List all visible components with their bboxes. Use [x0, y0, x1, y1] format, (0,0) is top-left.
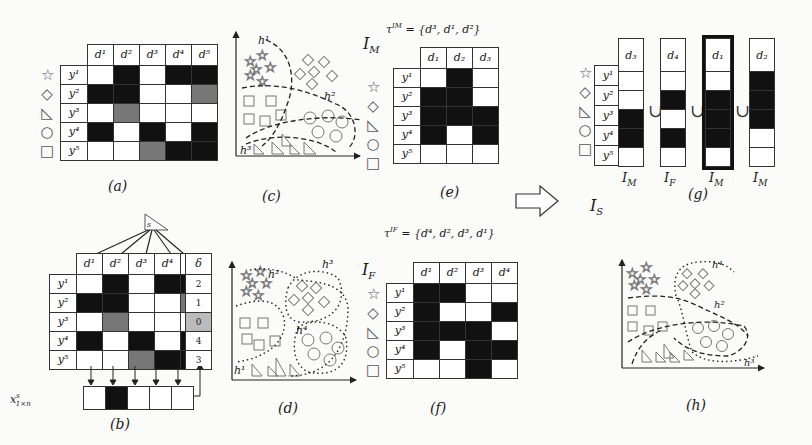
matrix-row: y⁵ [394, 145, 499, 164]
label-IM-c: IM [363, 34, 380, 55]
corner [394, 48, 421, 69]
column-cell [706, 91, 731, 110]
label-h2-d: h² [268, 268, 280, 281]
label-IS: IS [590, 196, 603, 217]
matrix-cell [473, 126, 499, 145]
delta-header: δ [186, 254, 212, 275]
matrix-cell [421, 69, 447, 88]
corner [61, 45, 88, 66]
column-row [706, 72, 731, 91]
label-h3-h: h³ [744, 357, 754, 368]
header-row: d¹d²d³d⁴ [387, 263, 518, 284]
circle-icon: ○ [576, 121, 594, 140]
matrix-cell [77, 313, 103, 332]
column-header: d₁ [706, 39, 731, 72]
matrix-cell [103, 294, 129, 313]
triangle-icon: ◺ [364, 323, 382, 342]
column-cell [661, 91, 686, 110]
triangle-icon: ◺ [364, 116, 382, 135]
star-icon: ☆ [364, 285, 382, 304]
svg-text:s: s [147, 220, 151, 229]
column-header-row: d₃ [619, 39, 644, 72]
column-row [619, 110, 644, 129]
matrix-cell [88, 142, 114, 161]
column-header: d¹ [77, 254, 103, 275]
matrix-cell [192, 123, 218, 142]
column-row [706, 129, 731, 148]
matrix-cell [88, 85, 114, 104]
matrix-cell [492, 360, 518, 379]
row-label: y¹ [50, 275, 77, 294]
matrix-cell [473, 69, 499, 88]
header-row: d₁d₂d₃ [394, 48, 499, 69]
row-label: y² [387, 303, 414, 322]
matrix-cell [440, 322, 466, 341]
row-label: y¹ [394, 69, 421, 88]
matrix-cell [473, 107, 499, 126]
caption-a: (a) [108, 178, 127, 194]
matrix-cell [492, 322, 518, 341]
matrix-cell [466, 360, 492, 379]
column-cell [619, 72, 644, 91]
corner [387, 263, 414, 284]
matrix-cell [466, 341, 492, 360]
column-row [661, 129, 686, 148]
column-header: d⁴ [155, 254, 181, 275]
matrix-cell [88, 66, 114, 85]
caption-e: (e) [440, 184, 459, 200]
column-row [661, 110, 686, 129]
hollow-arrow-icon [514, 184, 560, 218]
x-vector-label: xs1×n [10, 392, 31, 408]
matrix-cell [440, 360, 466, 379]
matrix-cell [88, 123, 114, 142]
column-row [661, 91, 686, 110]
matrix-row: y² [50, 294, 207, 313]
matrix-cell [129, 313, 155, 332]
column-row [750, 129, 775, 148]
column-cell [706, 148, 731, 167]
matrix-cell [440, 341, 466, 360]
delta-value: 4 [186, 332, 212, 351]
column-source-label: IM [622, 170, 636, 188]
square-icon: □ [38, 142, 56, 161]
row-label: y² [50, 294, 77, 313]
column-cell [661, 110, 686, 129]
row-label: y⁴ [394, 126, 421, 145]
x-vector-cell [128, 387, 150, 410]
column-cell [750, 129, 775, 148]
column-header: d³ [140, 45, 166, 66]
circle-icon: ○ [38, 123, 56, 142]
label-h1: h¹ [258, 34, 270, 47]
column-header: d⁴ [166, 45, 192, 66]
x-vector-row [84, 387, 194, 410]
matrix-cell [421, 107, 447, 126]
matrix-cell [166, 104, 192, 123]
column-header: d³ [129, 254, 155, 275]
delta-value: 1 [186, 294, 212, 313]
union-symbol: ∪ [690, 100, 705, 121]
matrix-cell [103, 332, 129, 351]
column-header: d⁵ [192, 45, 218, 66]
matrix-row: y⁴ [61, 123, 218, 142]
label-IF: IF [362, 260, 375, 281]
row-label: y¹ [387, 284, 414, 303]
row-label: y⁵ [61, 142, 88, 161]
column-cell [661, 72, 686, 91]
delta-column: δ21043 [185, 253, 212, 370]
matrix-cell [414, 284, 440, 303]
feature-column-0: d₃ [618, 38, 644, 167]
tau-IM: τIM = {d³, d¹, d²} [386, 22, 481, 36]
matrix-f: d¹d²d³d⁴y¹y²y³y⁴y⁵ [386, 262, 518, 379]
caption-d: (d) [278, 400, 298, 416]
matrix-cell [155, 294, 181, 313]
star-icon: ☆ [576, 64, 594, 83]
column-header-row: d₂ [750, 39, 775, 72]
column-cell [706, 110, 731, 129]
matrix-cell [466, 322, 492, 341]
column-row [661, 72, 686, 91]
matrix-cell [166, 85, 192, 104]
matrix-cell [140, 85, 166, 104]
triangle-icon: ◺ [38, 104, 56, 123]
column-cell [750, 72, 775, 91]
matrix-cell [414, 322, 440, 341]
